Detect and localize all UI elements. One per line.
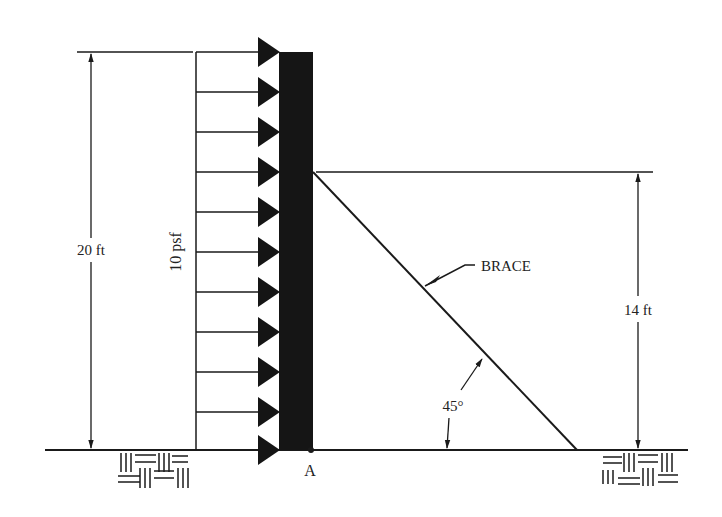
- brace-leader-arrowhead: [425, 275, 440, 286]
- load-label-10psf: 10 psf: [167, 232, 185, 272]
- angle-arrow-lower: [447, 418, 449, 448]
- angle-label: 45°: [443, 398, 464, 414]
- distributed-load-arrows: [196, 37, 280, 465]
- brace-label: BRACE: [481, 258, 531, 274]
- wall-brace-diagram: 20 ft 10 psf A BRACE 14 ft 45°: [0, 0, 722, 517]
- wall: [279, 52, 313, 450]
- height-label-14ft: 14 ft: [624, 302, 653, 318]
- ground-hatch-left-icon: [118, 453, 188, 488]
- ground-hatch-right-icon: [603, 453, 678, 486]
- height-label-20ft: 20 ft: [77, 242, 106, 258]
- point-a-marker: [308, 447, 314, 453]
- angle-arrow-upper: [461, 359, 482, 390]
- point-a-label: A: [304, 462, 316, 479]
